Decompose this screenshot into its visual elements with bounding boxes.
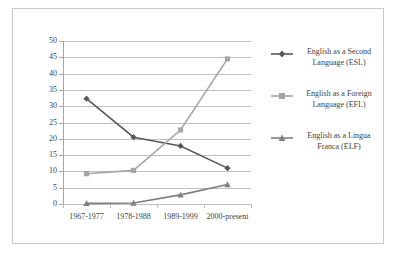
legend-label-esl: English as a Second Language (ESL) (295, 47, 383, 68)
y-axis-label: 20 (49, 135, 57, 143)
x-tick-mark (251, 204, 252, 208)
y-axis-label: 45 (49, 53, 57, 61)
data-point-marker (225, 56, 230, 61)
x-axis-label: 1967-1977 (69, 213, 104, 221)
legend-entry-elf: English as a Lingua Franca (ELF) (271, 131, 383, 157)
legend-label-elf-line1: English as a Lingua (307, 131, 370, 140)
x-tick-mark (63, 204, 64, 208)
legend-entry-esl: English as a Second Language (ESL) (271, 47, 383, 73)
y-axis-label: 40 (49, 70, 57, 78)
y-axis-label: 30 (49, 102, 57, 110)
plot-area: 05101520253035404550 1967-19771978-19881… (63, 41, 251, 204)
y-axis-label: 50 (49, 37, 57, 45)
data-point-marker (224, 165, 230, 171)
legend-label-efl: English as a Foreign Language (EFL) (295, 89, 383, 110)
series-plot (63, 41, 251, 204)
x-axis-label: 1978-1988 (116, 213, 151, 221)
legend-marker-triangle-icon (271, 133, 293, 143)
legend-marker-square-icon (271, 91, 293, 101)
y-axis-label: 35 (49, 86, 57, 94)
legend-label-esl-line1: English as a Second (307, 47, 371, 56)
chart-legend: English as a Second Language (ESL) Engli… (271, 47, 383, 173)
legend-label-elf-line2: Franca (ELF) (317, 142, 360, 151)
x-tick-mark (204, 204, 205, 208)
series-elf (83, 181, 230, 206)
data-point-marker (84, 171, 89, 176)
legend-marker-diamond-icon (271, 49, 293, 59)
series-line (87, 99, 228, 168)
x-tick-mark (157, 204, 158, 208)
figure-frame: 05101520253035404550 1967-19771978-19881… (12, 8, 384, 244)
series-line (87, 184, 228, 203)
y-axis-label: 5 (53, 184, 57, 192)
y-axis-label: 10 (49, 167, 57, 175)
legend-label-elf: English as a Lingua Franca (ELF) (295, 131, 383, 152)
data-point-marker (131, 168, 136, 173)
data-point-marker (178, 127, 183, 132)
x-axis-label: 2000-present (207, 213, 249, 221)
x-axis-label: 1989-1999 (163, 213, 198, 221)
x-tick-mark (110, 204, 111, 208)
series-esl (83, 96, 230, 172)
y-axis-label: 0 (53, 200, 57, 208)
chart-container: 05101520253035404550 1967-19771978-19881… (0, 0, 397, 256)
legend-label-esl-line2: Language (ESL) (312, 58, 365, 67)
y-axis-label: 15 (49, 151, 57, 159)
legend-label-efl-line2: Language (EFL) (312, 100, 365, 109)
y-axis-label: 25 (49, 119, 57, 127)
data-point-marker (177, 143, 183, 149)
legend-label-efl-line1: English as a Foreign (306, 89, 372, 98)
legend-entry-efl: English as a Foreign Language (EFL) (271, 89, 383, 115)
